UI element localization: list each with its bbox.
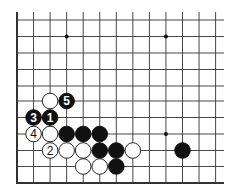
black-stone: 1 [42, 110, 58, 126]
move-number: 3 [30, 111, 37, 125]
white-stone [125, 143, 141, 159]
black-stone [75, 126, 91, 142]
move-number: 1 [47, 111, 54, 125]
black-stone: 3 [26, 110, 42, 126]
white-stone [75, 159, 91, 175]
black-stone [175, 143, 191, 159]
move-number: 5 [63, 94, 70, 108]
move-number: 2 [47, 144, 54, 158]
black-stone [109, 143, 125, 159]
black-stone: 5 [59, 93, 75, 109]
black-stone [59, 126, 75, 142]
go-board: 53142 [0, 0, 238, 195]
white-stone [75, 143, 91, 159]
white-stone: 4 [26, 126, 42, 142]
white-stone [42, 93, 58, 109]
white-stone: 2 [42, 143, 58, 159]
star-point [65, 35, 69, 39]
star-point [164, 132, 168, 136]
black-stone [92, 126, 108, 142]
black-stone [109, 159, 125, 175]
star-point [164, 35, 168, 39]
move-number: 4 [30, 127, 37, 141]
black-stone [92, 143, 108, 159]
white-stone [59, 143, 75, 159]
white-stone [42, 126, 58, 142]
white-stone [92, 159, 108, 175]
